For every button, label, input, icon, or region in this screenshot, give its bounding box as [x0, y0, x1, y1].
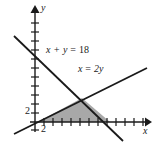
- equation-2-rhs: 2y: [94, 63, 104, 74]
- equation-1-lhs: x + y: [46, 44, 68, 55]
- x-axis-label: x: [143, 126, 148, 136]
- y-axis-arrowhead: [31, 5, 40, 13]
- coordinate-plane-figure: y x 2 2 x + y = 18 x = 2y: [0, 0, 157, 147]
- equation-label-x-equals-2y: x = 2y: [78, 64, 104, 74]
- y-axis-label: y: [41, 3, 46, 13]
- x-axis-tick-label-2: 2: [41, 124, 46, 134]
- equation-2-equals: =: [83, 63, 94, 74]
- y-axis-tick-label-2: 2: [25, 106, 30, 116]
- equation-label-x-plus-y-equals-18: x + y = 18: [46, 45, 89, 55]
- equation-1-rhs: 18: [79, 44, 89, 55]
- equation-1-equals: =: [68, 44, 79, 55]
